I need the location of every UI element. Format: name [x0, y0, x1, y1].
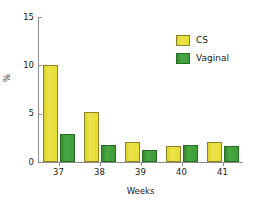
bar-vaginal-week-37: [60, 134, 75, 162]
y-tick-label-text: 15: [8, 13, 34, 22]
bar-cs-week-39: [125, 142, 140, 162]
x-tick-label-40: 40: [162, 168, 202, 177]
legend-item-cs[interactable]: CS: [176, 33, 229, 47]
x-axis-title: Weeks: [38, 186, 243, 196]
bar-vaginal-week-39: [142, 150, 157, 162]
bar-cs-week-37: [43, 65, 58, 162]
x-tick-label-39: 39: [121, 168, 161, 177]
legend-item-vaginal[interactable]: Vaginal: [176, 51, 229, 65]
y-axis-title: %: [2, 74, 12, 82]
legend-swatch-cs-icon: [176, 35, 190, 46]
bar-cs-week-41: [207, 142, 222, 162]
legend-label-vaginal: Vaginal: [196, 54, 229, 63]
x-tick-mark: [141, 163, 142, 166]
bar-vaginal-week-41: [224, 146, 239, 162]
y-tick-label: 15: [6, 13, 34, 23]
legend: CS Vaginal: [176, 33, 229, 69]
y-tick-label: 0: [6, 158, 34, 168]
y-tick-label-text: 10: [8, 61, 34, 70]
x-tick-mark: [100, 163, 101, 166]
y-tick-label: 10: [6, 61, 34, 71]
x-tick-mark: [223, 163, 224, 166]
y-tick-label-text: 0: [8, 158, 34, 167]
bar-cs-week-38: [84, 112, 99, 162]
x-tick-label-37: 37: [39, 168, 79, 177]
bar-vaginal-week-40: [183, 145, 198, 162]
legend-label-cs: CS: [196, 36, 208, 45]
bar-vaginal-week-38: [101, 145, 116, 162]
x-tick-label-41: 41: [203, 168, 243, 177]
y-tick-mark: [39, 162, 42, 163]
x-tick-label-38: 38: [80, 168, 120, 177]
y-tick-label-text: 5: [8, 109, 34, 118]
y-tick-label: 5: [6, 109, 34, 119]
x-tick-mark: [182, 163, 183, 166]
x-tick-mark: [59, 163, 60, 166]
legend-swatch-vaginal-icon: [176, 53, 190, 64]
bar-chart: 051015 3738394041 Weeks % CS Vaginal: [0, 0, 254, 212]
bar-cs-week-40: [166, 146, 181, 162]
